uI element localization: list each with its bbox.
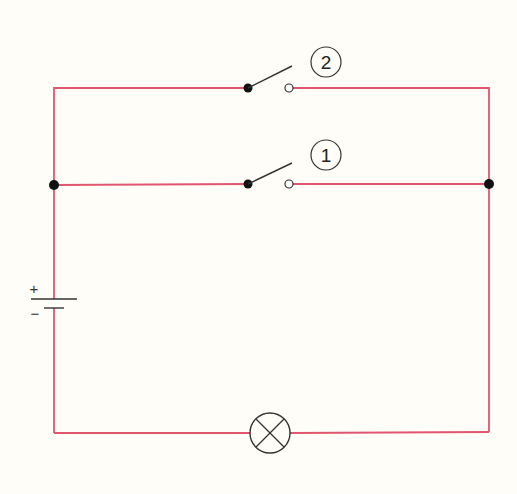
- switch-1[interactable]: 1: [244, 140, 342, 189]
- circuit-diagram: 2 1 + −: [0, 0, 517, 494]
- wire-top-left: [54, 88, 248, 185]
- junction-left: [49, 180, 59, 190]
- switch-2-lever: [248, 66, 292, 88]
- switch-1-lever: [248, 163, 292, 184]
- junction-right: [484, 179, 494, 189]
- switch-1-label: 1: [321, 145, 332, 166]
- switch-1-contact: [285, 180, 293, 188]
- wires: [54, 88, 489, 433]
- lamp-icon: [250, 413, 290, 453]
- wire-bottom-right: [290, 432, 489, 433]
- switch-2-contact: [285, 84, 293, 92]
- battery-minus-label: −: [31, 305, 40, 322]
- wire-middle-left: [54, 184, 248, 185]
- switch-2[interactable]: 2: [244, 47, 342, 93]
- battery-plus-label: +: [30, 280, 39, 297]
- switch-2-label: 2: [321, 52, 332, 73]
